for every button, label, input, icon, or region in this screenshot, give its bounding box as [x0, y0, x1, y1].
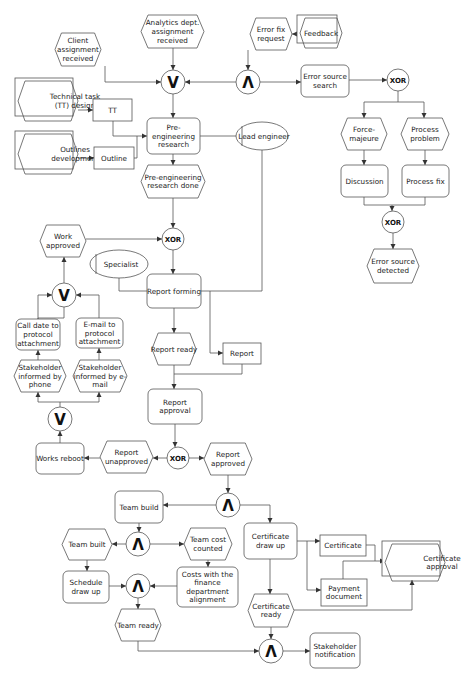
cert-approval-doc-event[interactable]: Certificateapproval	[382, 541, 461, 581]
report-forming-function[interactable]: Report forming	[147, 274, 201, 308]
report-ready-event[interactable]: Report ready	[151, 333, 198, 365]
node-label: search	[313, 81, 337, 90]
or-operator-icon: V	[58, 287, 70, 305]
client-assignment-event[interactable]: Clientassignmentreceived	[55, 33, 101, 66]
connector-arrow	[113, 121, 147, 136]
node-label: Team built	[67, 540, 105, 549]
connector-arrow	[210, 291, 223, 353]
xor-operator-icon: XOR	[165, 236, 182, 244]
connector-arrow	[105, 66, 161, 82]
sh-email-event[interactable]: Stakeholderinformed by e-mail	[73, 360, 127, 392]
node-label: mail	[92, 380, 107, 389]
and-operator-icon: Λ	[132, 578, 144, 596]
tt-design-doc-event[interactable]: Technical task(TT) design	[15, 78, 101, 121]
process-problem-event[interactable]: Processproblem	[401, 118, 449, 150]
sh-phone-event[interactable]: Stakeholderinformed byphone	[14, 360, 66, 392]
node-label: Outline	[101, 154, 128, 163]
node-label: notification	[315, 650, 355, 659]
xor-operator-icon: XOR	[170, 455, 187, 463]
error-source-detected-event[interactable]: Error sourcedetected	[367, 249, 419, 283]
node-label: approved	[211, 459, 245, 468]
payment-doc-doc[interactable]: Paymentdocument	[321, 579, 367, 606]
node-label: draw up	[71, 587, 101, 596]
work-approved-event[interactable]: Workapproved	[40, 225, 86, 257]
connector-arrow	[38, 295, 52, 319]
team-ready-event[interactable]: Team ready	[115, 609, 161, 641]
xor-gate-2-gate[interactable]: XOR	[382, 211, 404, 233]
connector-arrow	[201, 150, 262, 291]
node-label: development	[51, 154, 99, 163]
connector-arrow	[76, 295, 99, 318]
xor-operator-icon: XOR	[390, 77, 407, 85]
connector-arrow	[38, 392, 60, 407]
email-protocol-function[interactable]: E-mail toprotocolattachment	[76, 318, 123, 348]
connector-arrow	[60, 392, 99, 402]
tt-doc[interactable]: TT	[93, 99, 132, 121]
team-build-function[interactable]: Team build	[115, 491, 163, 523]
node-label: Report	[230, 349, 254, 358]
certificate-doc-doc[interactable]: Certificate	[320, 535, 366, 556]
and-gate-team-gate[interactable]: Λ	[216, 493, 240, 517]
node-label: Lead engineer	[238, 132, 289, 141]
error-source-search-function[interactable]: Error sourcesearch	[301, 65, 349, 97]
team-built-event[interactable]: Team built	[62, 529, 112, 560]
or-gate-2-gate[interactable]: V	[52, 283, 76, 307]
node-label: approval	[426, 562, 457, 571]
team-cost-counted-event[interactable]: Team costcounted	[184, 528, 232, 560]
connector-arrow	[364, 197, 392, 211]
specialist-role[interactable]: Specialist	[90, 250, 148, 278]
node-label: request	[257, 34, 285, 43]
xor-gate-main-gate[interactable]: XOR	[162, 228, 184, 250]
node-label: unapproved	[105, 457, 148, 466]
xor-operator-icon: XOR	[385, 219, 402, 227]
analytics-assignment-event[interactable]: Analytics dept.assignmentreceived	[141, 15, 204, 48]
node-label: Specialist	[104, 260, 139, 269]
and-gate-tb-gate[interactable]: Λ	[126, 532, 150, 556]
call-date-function[interactable]: Call date toprotocolattachment	[16, 319, 60, 350]
force-majeure-event[interactable]: Force-majeure	[341, 118, 387, 150]
node-label: TT	[107, 106, 117, 115]
works-reboot-function[interactable]: Works reboot	[36, 443, 84, 474]
cert-draw-up-function[interactable]: Certificatedraw up	[244, 523, 297, 559]
process-fix-function[interactable]: Process fix	[402, 165, 449, 197]
node-label: ready	[261, 610, 282, 619]
node-label: detected	[377, 266, 409, 275]
discussion-function[interactable]: Discussion	[341, 165, 388, 197]
report-unapproved-event[interactable]: Reportunapproved	[100, 441, 153, 473]
node-label: Team ready	[116, 621, 159, 630]
cert-ready-event[interactable]: Certificateready	[248, 594, 294, 627]
pre-eng-done-event[interactable]: Pre-engineeringresearch done	[141, 165, 205, 198]
costs-finance-function[interactable]: Costs with thefinancedepartmentalignment	[177, 567, 238, 607]
and-gate-final-gate[interactable]: Λ	[259, 639, 283, 663]
or-gate-1-gate[interactable]: V	[161, 70, 185, 94]
or-operator-icon: V	[54, 411, 66, 429]
outline-doc[interactable]: Outline	[94, 147, 134, 169]
and-operator-icon: Λ	[265, 643, 277, 661]
node-label: received	[63, 54, 94, 63]
xor-gate-error-gate[interactable]: XOR	[387, 69, 409, 91]
xor-gate-report-gate[interactable]: XOR	[167, 447, 189, 469]
stakeholder-notification-function[interactable]: Stakeholdernotification	[310, 633, 360, 668]
report-doc-doc[interactable]: Report	[223, 343, 261, 364]
and-gate-sched-gate[interactable]: Λ	[126, 574, 150, 598]
node-label: approved	[46, 241, 80, 250]
schedule-draw-up-function[interactable]: Scheduledraw up	[63, 571, 109, 603]
connector-arrow	[364, 91, 398, 118]
epc-diagram-canvas: ClientassignmentreceivedAnalytics dept.a…	[0, 0, 461, 679]
lead-engineer-role[interactable]: Lead engineer	[236, 122, 290, 150]
connector-arrow	[307, 541, 321, 590]
node-layer: ClientassignmentreceivedAnalytics dept.a…	[14, 15, 461, 668]
node-label: Discussion	[345, 177, 383, 186]
report-approval-function[interactable]: Reportapproval	[148, 389, 202, 424]
connector-arrow	[398, 102, 424, 118]
error-fix-request-event[interactable]: Error fixrequest	[250, 18, 292, 50]
or-gate-3-gate[interactable]: V	[48, 407, 72, 431]
and-gate-1-gate[interactable]: Λ	[236, 70, 260, 94]
node-label: document	[326, 592, 362, 601]
report-approved-event[interactable]: Reportapproved	[204, 443, 252, 475]
outlines-dev-doc-event[interactable]: Outlinesdevelopment	[15, 131, 99, 174]
pre-eng-research-function[interactable]: Pre-engineeringresearch	[147, 118, 200, 154]
connector-arrow	[134, 136, 137, 158]
feedback-doc-event[interactable]: Feedback	[297, 15, 342, 48]
node-label: (TT) design	[55, 101, 95, 110]
